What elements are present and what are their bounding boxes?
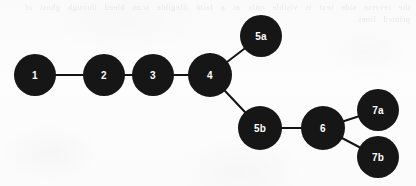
graph-node-label-3: 3 <box>150 70 156 81</box>
graph-node-6[interactable]: 6 <box>301 106 345 150</box>
graph-node-5b[interactable]: 5b <box>238 106 282 150</box>
graph-node-label-1: 1 <box>32 70 38 81</box>
graph-node-5a[interactable]: 5a <box>240 15 282 57</box>
graph-node-label-2: 2 <box>101 70 107 81</box>
graph-node-label-4: 4 <box>207 70 213 81</box>
graph-node-7a[interactable]: 7a <box>357 89 399 131</box>
scanned-page: the reverse side text is visible only as… <box>0 0 416 186</box>
node-link-graph: 12345a5b67a7b <box>0 0 416 186</box>
graph-node-2[interactable]: 2 <box>83 54 125 96</box>
graph-node-3[interactable]: 3 <box>132 54 174 96</box>
graph-node-7b[interactable]: 7b <box>357 136 399 178</box>
graph-node-label-6: 6 <box>320 123 326 134</box>
graph-node-label-7a: 7a <box>372 105 384 116</box>
graph-node-label-7b: 7b <box>372 152 384 163</box>
graph-node-label-5b: 5b <box>254 123 266 134</box>
graph-node-4[interactable]: 4 <box>188 53 232 97</box>
node-layer: 12345a5b67a7b <box>14 15 399 178</box>
graph-node-1[interactable]: 1 <box>14 54 56 96</box>
graph-node-label-5a: 5a <box>255 31 267 42</box>
